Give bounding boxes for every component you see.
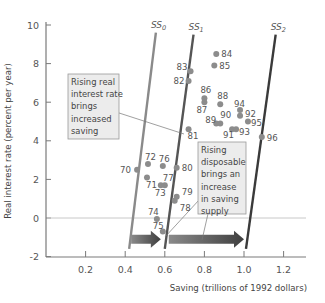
data-point-label: 90 [220,110,231,120]
annotation-real-rate: Rising realinterest ratebringsincreaseds… [68,74,123,139]
data-point-88 [217,101,223,107]
data-point-85 [211,63,217,69]
data-point-label: 95 [251,118,262,128]
data-point-label: 72 [145,152,156,162]
shift-arrow-0 [131,231,161,248]
shift-arrows [131,231,244,248]
data-point-96 [259,134,265,140]
y-tick-label: 4 [33,135,39,146]
x-tick-label: 0.4 [118,264,133,275]
data-point-label: 88 [217,91,228,101]
data-point-label: 80 [182,163,193,173]
x-axis-title: Saving (trillions of 1992 dollars) [170,283,307,293]
data-point-label: 96 [267,133,278,143]
data-point-label: 74 [148,207,159,217]
data-point-84 [213,51,219,57]
y-axis-title: Real interest rate (percent per year) [3,63,13,219]
data-point-92 [237,113,243,119]
x-tick-label: 1.0 [236,264,251,275]
curve-label-ss0: SS0 [151,20,166,33]
curve-label-ss1: SS1 [189,22,204,35]
data-point-label: 84 [221,49,232,59]
x-axis-ticks: 0.20.40.60.81.01.2 [78,251,291,275]
data-point-label: 91 [223,130,234,140]
data-point-label: 76 [159,154,170,164]
data-point-90 [217,120,223,126]
data-point-label: 82 [174,76,185,86]
data-point-82 [186,78,192,84]
y-tick-label: 10 [27,20,39,31]
x-tick-label: 0.2 [78,264,93,275]
data-point-label: 94 [234,99,245,109]
y-tick-label: 8 [33,58,39,69]
annotation-disposable: Risingdisposablebrings anincreasein savi… [198,142,246,216]
y-tick-label: 2 [33,174,39,185]
y-axis-ticks: -20246810 [27,20,51,263]
saving-supply-chart: Real interest rate (percent per year) -2… [0,0,325,303]
x-tick-label: 1.2 [276,264,291,275]
data-point-label: 87 [196,105,207,115]
data-point-label: 86 [200,85,211,95]
data-point-83 [188,68,194,74]
data-point-80 [174,165,180,171]
data-point-label: 83 [177,62,188,72]
data-point-label: 70 [120,165,131,175]
data-point-label: 78 [180,203,191,213]
x-tick-label: 0.6 [157,264,172,275]
y-tick-label: -2 [30,251,39,262]
shift-arrow-1 [169,231,244,248]
data-point-label: 73 [155,188,166,198]
data-point-70 [134,167,140,173]
curve-label-ss2: SS2 [271,22,286,35]
data-point-label: 85 [219,61,230,71]
y-tick-label: 6 [33,97,39,108]
data-point-label: 81 [188,131,199,141]
data-point-label: 77 [163,173,174,183]
x-tick-label: 0.8 [197,264,212,275]
data-point-label: 89 [205,115,216,125]
data-point-label: 79 [182,187,193,197]
data-point-label: 75 [153,221,164,231]
data-point-label: 93 [239,127,250,137]
y-tick-label: 0 [33,213,39,224]
data-point-79 [174,194,180,200]
